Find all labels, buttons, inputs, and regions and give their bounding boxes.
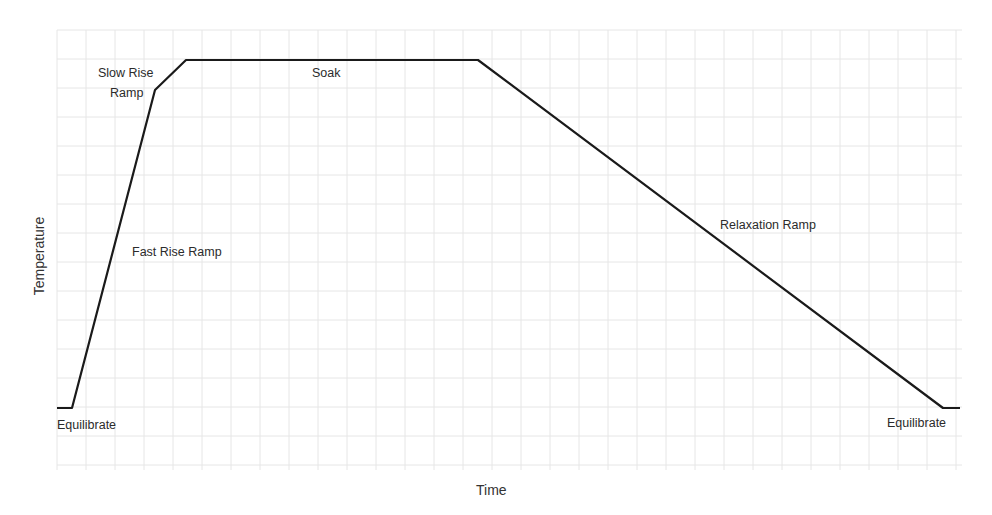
temperature-profile-line (57, 60, 960, 408)
label-soak: Soak (312, 66, 341, 81)
x-axis-title: Time (476, 482, 507, 498)
label-slow-rise: Slow Rise (98, 66, 154, 81)
label-relaxation-ramp: Relaxation Ramp (720, 218, 816, 233)
label-slow-rise-ramp: Ramp (110, 86, 143, 101)
label-fast-rise-ramp: Fast Rise Ramp (132, 245, 222, 260)
label-equilibrate-end: Equilibrate (887, 416, 946, 431)
y-axis-title: Temperature (31, 211, 47, 301)
label-equilibrate-start: Equilibrate (57, 418, 116, 433)
